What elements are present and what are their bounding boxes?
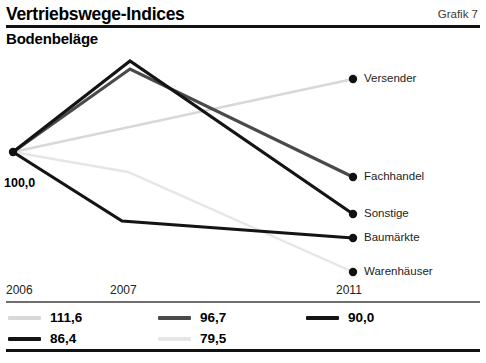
legend-swatch — [306, 316, 339, 320]
legend-value: 111,6 — [50, 310, 82, 325]
series-endpoint-warenhäuser — [349, 268, 357, 276]
series-label-warenhäuser: Warenhäuser — [364, 265, 433, 277]
series-line-sonstige — [13, 61, 353, 214]
legend-value: 90,0 — [348, 310, 374, 325]
x-axis-tick-2011: 2011 — [336, 283, 362, 297]
legend-swatch — [158, 316, 191, 320]
series-endpoint-baumärkte — [349, 234, 357, 242]
series-endpoint-fachhandel — [349, 173, 357, 181]
series-label-baumärkte: Baumärkte — [364, 231, 420, 243]
origin-value-label: 100,0 — [4, 176, 35, 190]
legend-swatch — [8, 316, 41, 320]
legend-value: 86,4 — [50, 331, 76, 346]
series-label-sonstige: Sonstige — [364, 207, 409, 219]
x-axis-tick-2006: 2006 — [6, 283, 33, 297]
legend-item-864: 86,4 — [8, 331, 76, 346]
legend-swatch — [158, 337, 191, 341]
x-axis-tick-2007: 2007 — [110, 283, 137, 297]
legend-swatch — [8, 337, 41, 341]
line-chart-plot — [0, 0, 486, 300]
legend-value: 96,7 — [200, 310, 226, 325]
legend-item-1116: 111,6 — [8, 310, 82, 325]
footer-divider — [6, 349, 480, 352]
series-endpoint-sonstige — [349, 210, 357, 218]
series-label-versender: Versender — [364, 72, 416, 84]
series-endpoint-versender — [349, 75, 357, 83]
series-label-fachhandel: Fachhandel — [364, 170, 424, 182]
legend-value: 79,5 — [200, 331, 226, 346]
legend-item-795: 79,5 — [158, 331, 226, 346]
legend-item-967: 96,7 — [158, 310, 226, 325]
series-line-warenhäuser — [13, 152, 353, 272]
chart-page: Vertriebswege-Indices Grafik 7 Bodenbelä… — [0, 0, 486, 363]
origin-marker — [9, 148, 17, 156]
x-axis-line — [6, 301, 480, 303]
series-line-baumärkte — [13, 152, 353, 238]
legend-item-900: 90,0 — [306, 310, 374, 325]
chart-legend: 111,696,790,086,479,5 — [6, 308, 480, 348]
